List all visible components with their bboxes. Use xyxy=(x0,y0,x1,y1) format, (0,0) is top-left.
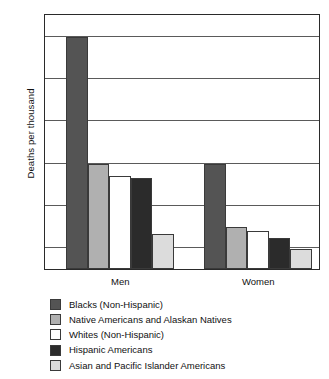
legend-item: Asian and Pacific Islander Americans xyxy=(50,358,320,373)
legend-label: Asian and Pacific Islander Americans xyxy=(69,361,225,371)
bar xyxy=(109,176,131,269)
bar xyxy=(290,249,312,269)
x-tick-label-women: Women xyxy=(218,276,298,287)
legend-swatch-icon xyxy=(50,360,61,371)
legend-swatch-icon xyxy=(50,299,61,310)
legend-label: Whites (Non-Hispanic) xyxy=(69,330,164,340)
legend-swatch-icon xyxy=(50,329,61,340)
legend-item: Blacks (Non-Hispanic) xyxy=(50,297,320,312)
bar xyxy=(269,238,291,269)
legend-item: Native Americans and Alaskan Natives xyxy=(50,312,320,327)
plot-area: 24681012 xyxy=(44,14,320,270)
legend-swatch-icon xyxy=(50,345,61,356)
bar xyxy=(131,178,153,269)
legend-item: Whites (Non-Hispanic) xyxy=(50,327,320,342)
x-tick-label-men: Men xyxy=(80,276,160,287)
bar-chart: Deaths per thousand 24681012 MenWomen Bl… xyxy=(0,0,329,379)
bar xyxy=(66,37,88,269)
bar xyxy=(247,231,269,269)
legend-label: Blacks (Non-Hispanic) xyxy=(69,300,163,310)
y-axis-title: Deaths per thousand xyxy=(25,54,36,214)
bar xyxy=(152,234,174,269)
bar xyxy=(204,164,226,269)
plot-inner: 24681012 xyxy=(45,15,319,269)
bar xyxy=(88,164,110,269)
legend-swatch-icon xyxy=(50,314,61,325)
legend-item: Hispanic Americans xyxy=(50,343,320,358)
legend-label: Native Americans and Alaskan Natives xyxy=(69,315,232,325)
chart-legend: Blacks (Non-Hispanic)Native Americans an… xyxy=(50,297,320,373)
legend-label: Hispanic Americans xyxy=(69,345,152,355)
bar xyxy=(226,227,248,269)
